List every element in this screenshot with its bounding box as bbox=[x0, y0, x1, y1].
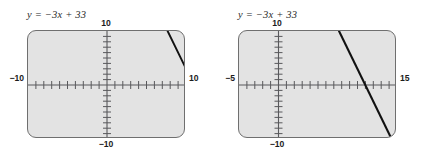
graph-panel-left: y = −3x + 33 bbox=[0, 0, 210, 160]
calculator-screen-right bbox=[238, 30, 396, 138]
x-max-label-left: 10 bbox=[189, 73, 199, 83]
plotted-line-left bbox=[168, 31, 185, 69]
axes-and-plot-left bbox=[28, 31, 185, 138]
x-max-label-right: 15 bbox=[400, 73, 410, 83]
graph-panel-right: y = −3x + 33 bbox=[211, 0, 421, 160]
y-min-label-left: −10 bbox=[99, 139, 114, 149]
x-min-label-right: −5 bbox=[211, 73, 235, 83]
y-max-label-right: 10 bbox=[272, 18, 282, 28]
equation-label-left: y = −3x + 33 bbox=[27, 9, 86, 20]
equation-label-right: y = −3x + 33 bbox=[238, 9, 297, 20]
x-min-label-left: −10 bbox=[0, 73, 24, 83]
y-max-label-left: 10 bbox=[101, 18, 111, 28]
axes-and-plot-right bbox=[239, 31, 396, 138]
calculator-screen-left bbox=[27, 30, 185, 138]
y-min-label-right: −10 bbox=[270, 139, 285, 149]
graphing-calculator-figure: y = −3x + 33 bbox=[0, 0, 421, 160]
